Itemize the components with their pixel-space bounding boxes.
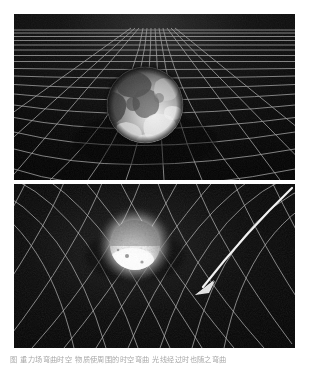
- film-grain-overlay: [14, 184, 295, 348]
- figure-caption-text: 图 重力场弯曲时空 物质使周围的时空弯曲 光线经过时也随之弯曲: [10, 354, 295, 365]
- film-grain-overlay: [14, 14, 295, 180]
- figure-page: 图 重力场弯曲时空 物质使周围的时空弯曲 光线经过时也随之弯曲: [0, 0, 310, 365]
- earth-spacetime-illustration: [14, 14, 295, 180]
- panel-earth-spacetime-grid: [14, 14, 295, 180]
- panel-star-spacetime-funnel: [14, 184, 295, 348]
- star-spacetime-illustration: [14, 184, 295, 348]
- figure-caption: 图 重力场弯曲时空 物质使周围的时空弯曲 光线经过时也随之弯曲: [10, 354, 295, 365]
